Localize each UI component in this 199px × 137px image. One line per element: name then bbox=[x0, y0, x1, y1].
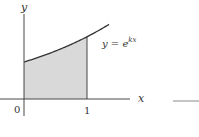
y-axis-label: y bbox=[20, 1, 28, 14]
function-label: y = ekx bbox=[101, 36, 137, 49]
function-label-exponent: kx bbox=[128, 36, 136, 44]
shaded-area bbox=[24, 37, 87, 99]
x-tick-label-0: 0 bbox=[14, 104, 20, 115]
x-axis-label: x bbox=[138, 92, 145, 105]
function-label-base: y = e bbox=[101, 38, 128, 49]
x-tick-label-1: 1 bbox=[84, 105, 90, 116]
chart: y x 0 1 y = ekx bbox=[0, 0, 199, 137]
